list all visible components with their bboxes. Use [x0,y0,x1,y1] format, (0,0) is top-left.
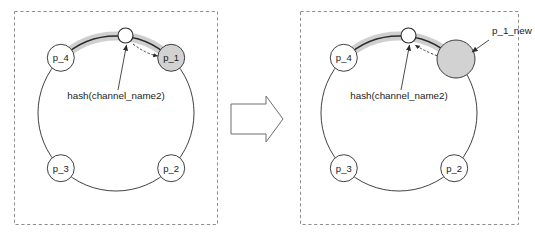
block-arrow-right-icon [231,96,283,142]
node-label-p2-before: p_2 [163,163,179,174]
figure-root: p_4 p_1 p_3 p_2 hash(channel_name2) [0,0,535,236]
hash-marker-dot-after [401,28,416,43]
node-p3-before[interactable]: p_3 [47,155,74,182]
node-p1-before[interactable]: p_1 [158,44,185,71]
arc-highlight-after [345,36,453,58]
node-label-p4-after: p_4 [336,52,352,63]
node-label-p3-after: p_3 [336,163,352,174]
hash-leader-line-before [118,45,127,90]
node-circle-p1-new[interactable] [437,40,475,78]
node-label-p1-before: p_1 [163,52,179,63]
p1-new-callout-label: p_1_new [492,25,533,36]
ring-diagram: p_4 p_1 p_3 p_2 hash(channel_name2) [0,0,535,236]
node-label-p3-before: p_3 [53,163,69,174]
node-p1-new-after[interactable] [437,40,475,78]
panel-border-before [15,12,218,225]
p1-new-callout-leader [472,40,489,52]
panel-before: p_4 p_1 p_3 p_2 hash(channel_name2) [15,12,218,225]
node-p3-after[interactable]: p_3 [330,155,357,182]
hash-marker-dot-before [118,28,133,43]
node-p4-after[interactable]: p_4 [330,44,357,71]
node-p2-before[interactable]: p_2 [158,155,185,182]
node-label-p4-before: p_4 [53,52,69,63]
node-p4-before[interactable]: p_4 [47,44,74,71]
transition-block-arrow [231,96,283,142]
node-label-p2-after: p_2 [446,163,462,174]
hash-label-after: hash(channel_name2) [350,90,448,101]
panel-after: p_4 p_3 p_2 hash(channel_name2) p_1_new [301,12,533,225]
hash-label-before: hash(channel_name2) [67,90,165,101]
arc-highlight-before [62,36,170,58]
node-p2-after[interactable]: p_2 [441,155,468,182]
hash-leader-line-after [401,45,410,90]
